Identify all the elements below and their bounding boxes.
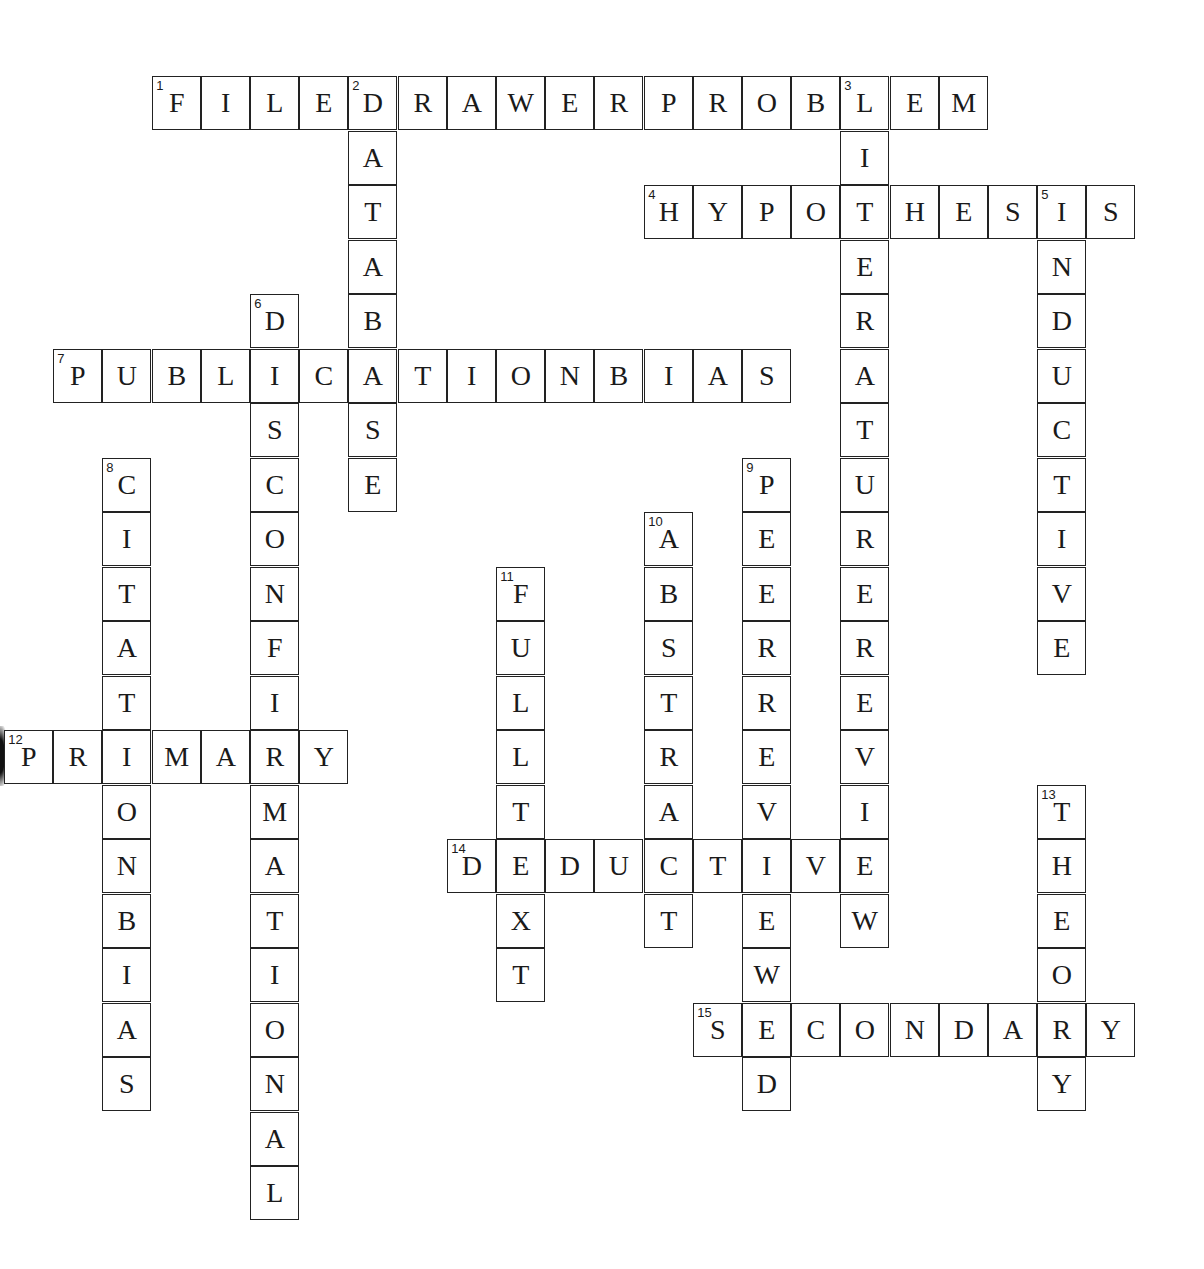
crossword-cell[interactable]: N — [545, 349, 594, 403]
crossword-cell[interactable]: T — [693, 839, 742, 893]
crossword-cell[interactable]: 2D — [348, 76, 397, 130]
crossword-cell[interactable]: 10A — [644, 512, 693, 566]
crossword-cell[interactable]: R — [840, 512, 889, 566]
crossword-cell[interactable]: E — [840, 240, 889, 294]
crossword-cell[interactable]: E — [840, 567, 889, 621]
crossword-cell[interactable]: Y — [299, 730, 348, 784]
crossword-cell[interactable]: 8C — [102, 458, 151, 512]
crossword-cell[interactable]: 5I — [1037, 185, 1086, 239]
crossword-cell[interactable]: T — [348, 185, 397, 239]
crossword-cell[interactable]: L — [250, 1166, 299, 1220]
crossword-cell[interactable]: O — [1037, 948, 1086, 1002]
crossword-cell[interactable]: A — [201, 730, 250, 784]
crossword-cell[interactable]: R — [840, 621, 889, 675]
crossword-cell[interactable]: I — [102, 730, 151, 784]
crossword-cell[interactable]: L — [496, 730, 545, 784]
crossword-cell[interactable]: Y — [1037, 1057, 1086, 1111]
crossword-cell[interactable]: E — [742, 730, 791, 784]
crossword-cell[interactable]: U — [1037, 349, 1086, 403]
crossword-cell[interactable]: A — [250, 1112, 299, 1166]
crossword-cell[interactable]: B — [791, 76, 840, 130]
crossword-cell[interactable]: R — [594, 76, 643, 130]
crossword-cell[interactable]: T — [102, 567, 151, 621]
crossword-cell[interactable]: V — [791, 839, 840, 893]
crossword-cell[interactable]: I — [102, 948, 151, 1002]
crossword-cell[interactable]: E — [840, 676, 889, 730]
crossword-cell[interactable]: I — [840, 131, 889, 185]
crossword-cell[interactable]: V — [840, 730, 889, 784]
crossword-cell[interactable]: P — [742, 185, 791, 239]
crossword-cell[interactable]: M — [250, 785, 299, 839]
crossword-cell[interactable]: M — [152, 730, 201, 784]
crossword-cell[interactable]: H — [890, 185, 939, 239]
crossword-cell[interactable]: S — [742, 349, 791, 403]
crossword-cell[interactable]: A — [348, 240, 397, 294]
crossword-cell[interactable]: A — [102, 621, 151, 675]
crossword-cell[interactable]: R — [644, 730, 693, 784]
crossword-cell[interactable]: O — [791, 185, 840, 239]
crossword-cell[interactable]: 6D — [250, 294, 299, 348]
crossword-cell[interactable]: T — [644, 676, 693, 730]
crossword-cell[interactable]: I — [201, 76, 250, 130]
crossword-cell[interactable]: A — [102, 1003, 151, 1057]
crossword-cell[interactable]: O — [742, 76, 791, 130]
crossword-cell[interactable]: S — [348, 403, 397, 457]
crossword-cell[interactable]: C — [791, 1003, 840, 1057]
crossword-cell[interactable]: 4H — [644, 185, 693, 239]
crossword-cell[interactable]: N — [1037, 240, 1086, 294]
crossword-cell[interactable]: V — [1037, 567, 1086, 621]
crossword-cell[interactable]: A — [348, 131, 397, 185]
crossword-cell[interactable]: A — [250, 839, 299, 893]
crossword-cell[interactable]: W — [742, 948, 791, 1002]
crossword-cell[interactable]: R — [250, 730, 299, 784]
crossword-cell[interactable]: P — [644, 76, 693, 130]
crossword-cell[interactable]: N — [250, 567, 299, 621]
crossword-cell[interactable]: T — [1037, 458, 1086, 512]
crossword-cell[interactable]: E — [742, 894, 791, 948]
crossword-cell[interactable]: I — [644, 349, 693, 403]
crossword-cell[interactable]: I — [742, 839, 791, 893]
crossword-cell[interactable]: D — [1037, 294, 1086, 348]
crossword-cell[interactable]: T — [398, 349, 447, 403]
crossword-cell[interactable]: M — [939, 76, 988, 130]
crossword-cell[interactable]: F — [250, 621, 299, 675]
crossword-cell[interactable]: 9P — [742, 458, 791, 512]
crossword-cell[interactable]: U — [840, 458, 889, 512]
crossword-cell[interactable]: O — [496, 349, 545, 403]
crossword-cell[interactable]: O — [250, 512, 299, 566]
crossword-cell[interactable]: T — [496, 785, 545, 839]
crossword-cell[interactable]: O — [102, 785, 151, 839]
crossword-cell[interactable]: N — [250, 1057, 299, 1111]
crossword-cell[interactable]: L — [201, 349, 250, 403]
crossword-cell[interactable]: A — [447, 76, 496, 130]
crossword-cell[interactable]: A — [988, 1003, 1037, 1057]
crossword-cell[interactable]: E — [742, 567, 791, 621]
crossword-cell[interactable]: O — [840, 1003, 889, 1057]
crossword-cell[interactable]: T — [644, 894, 693, 948]
crossword-cell[interactable]: Y — [693, 185, 742, 239]
crossword-cell[interactable]: B — [644, 567, 693, 621]
crossword-cell[interactable]: V — [742, 785, 791, 839]
crossword-cell[interactable]: E — [348, 458, 397, 512]
crossword-cell[interactable]: C — [1037, 403, 1086, 457]
crossword-cell[interactable]: 1F — [152, 76, 201, 130]
crossword-cell[interactable]: N — [890, 1003, 939, 1057]
crossword-cell[interactable]: R — [693, 76, 742, 130]
crossword-cell[interactable]: W — [840, 894, 889, 948]
crossword-cell[interactable]: 13T — [1037, 785, 1086, 839]
crossword-cell[interactable]: L — [250, 76, 299, 130]
crossword-cell[interactable]: R — [742, 676, 791, 730]
crossword-cell[interactable]: 7P — [53, 349, 102, 403]
crossword-cell[interactable]: 14D — [447, 839, 496, 893]
crossword-cell[interactable]: N — [102, 839, 151, 893]
crossword-cell[interactable]: R — [1037, 1003, 1086, 1057]
crossword-cell[interactable]: W — [496, 76, 545, 130]
crossword-cell[interactable]: S — [102, 1057, 151, 1111]
crossword-cell[interactable]: E — [299, 76, 348, 130]
crossword-cell[interactable]: E — [939, 185, 988, 239]
crossword-cell[interactable]: O — [250, 1003, 299, 1057]
crossword-cell[interactable]: E — [1037, 894, 1086, 948]
crossword-cell[interactable]: B — [594, 349, 643, 403]
crossword-cell[interactable]: T — [840, 403, 889, 457]
crossword-cell[interactable]: A — [348, 349, 397, 403]
